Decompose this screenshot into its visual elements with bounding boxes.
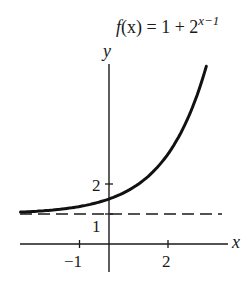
- chart-title: f(x) = 1 + 2x−1: [116, 13, 219, 38]
- title-exponent: x−1: [197, 13, 219, 28]
- function-graph: −1 2 1 2 x y f(x) = 1 + 2x−1: [0, 0, 252, 285]
- x-tick-label-2: 2: [162, 252, 171, 271]
- x-tick-label-neg1: −1: [64, 252, 82, 271]
- y-axis-label: y: [101, 41, 111, 61]
- y-tick-label-2: 2: [92, 176, 101, 195]
- title-arg: (x): [121, 17, 142, 38]
- x-axis-label: x: [231, 232, 240, 252]
- function-curve: [21, 66, 207, 212]
- y-tick-label-1: 1: [92, 217, 101, 236]
